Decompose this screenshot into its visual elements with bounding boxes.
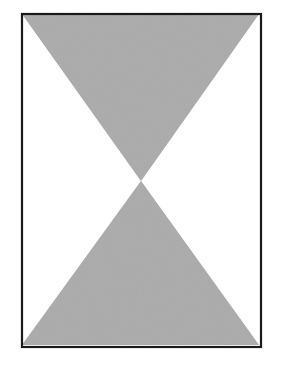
hourglass-figure [0, 0, 281, 367]
figure-canvas [0, 0, 281, 367]
